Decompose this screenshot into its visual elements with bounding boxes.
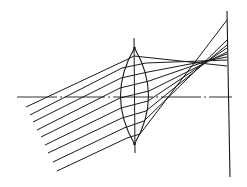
image-screen (227, 11, 230, 177)
lens-bottom-vertex (133, 143, 136, 146)
light-rays (26, 20, 227, 171)
light-ray-4 (37, 54, 227, 130)
lens-ray-diagram (0, 0, 247, 187)
screen-line (227, 11, 230, 177)
lens-top-vertex (133, 47, 136, 50)
diagram-svg (0, 0, 247, 187)
